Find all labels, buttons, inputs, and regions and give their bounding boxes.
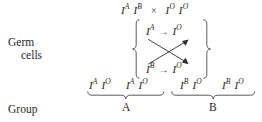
mother-genotype: IAIB — [121, 4, 142, 16]
crossing-arrows-group — [146, 37, 198, 67]
gamete-row-top: IA→IO — [146, 26, 182, 37]
offspring4-allele1-sup: B — [226, 77, 231, 86]
offspring-genotype-1: IAIO — [89, 80, 111, 91]
gamete-top-arrow-icon: → — [158, 26, 168, 37]
offspring4-allele2-sup: O — [238, 77, 243, 86]
group-label-text: Group — [8, 103, 37, 115]
father-allele2-sup: O — [183, 2, 188, 11]
father-allele1-sup: O — [169, 2, 174, 11]
row-label-group: Group — [8, 103, 37, 116]
mother-allele2-sup: B — [137, 2, 142, 11]
mother-allele1-sup: A — [125, 2, 130, 11]
offspring-genotype-2: IAIO — [126, 80, 148, 91]
offspring3-allele1-sup: B — [184, 77, 189, 86]
gamete-top-right-sup: O — [176, 23, 181, 32]
offspring1-allele1-sup: A — [93, 77, 98, 86]
group-b-text: B — [209, 101, 217, 113]
germ-cells-line1: Germ — [8, 36, 34, 48]
germ-cells-line2: cells — [8, 49, 42, 62]
cross-symbol: × — [151, 5, 157, 16]
offspring-genotype-4: IBIO — [222, 80, 244, 91]
group-label-b: B — [209, 101, 217, 113]
group-label-a: A — [122, 101, 130, 113]
germ-cells-right-brace — [202, 19, 212, 79]
gamete-top-right-allele: IO — [172, 25, 181, 37]
row-label-germ-cells: Germ cells — [8, 36, 42, 62]
offspring2-allele2-sup: O — [142, 77, 147, 86]
offspring3-allele2-sup: O — [196, 77, 201, 86]
father-allele2-base: I — [179, 4, 183, 16]
gamete-top-left-sup: A — [150, 23, 155, 32]
offspring1-allele2-sup: O — [105, 77, 110, 86]
gamete-top-left-allele: IA — [146, 25, 154, 37]
father-genotype: IOIO — [166, 4, 189, 16]
germ-cells-left-brace — [131, 19, 141, 79]
figure-canvas: Germ cells Group IAIB×IOIO IA→IO IB→IO — [0, 0, 262, 122]
group-a-text: A — [122, 101, 130, 113]
parental-cross-line: IAIB×IOIO — [121, 5, 188, 16]
offspring-genotype-3: IBIO — [180, 80, 202, 91]
offspring2-allele1-sup: A — [130, 77, 135, 86]
